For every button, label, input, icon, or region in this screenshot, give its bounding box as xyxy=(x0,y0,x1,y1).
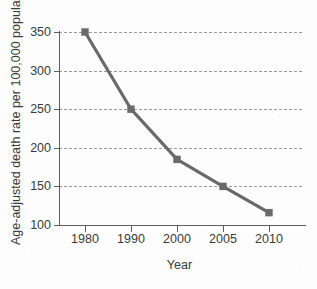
chart-screenshot: 350 300 250 200 150 100 1980 1990 2000 2… xyxy=(0,0,317,289)
data-point-2000 xyxy=(173,156,180,163)
series-markers xyxy=(81,28,272,216)
series-line xyxy=(85,32,269,213)
data-point-2010 xyxy=(265,209,272,216)
x-axis-title: Year xyxy=(0,258,317,272)
x-axis-title-text: Year xyxy=(167,258,192,272)
data-point-1990 xyxy=(127,106,134,113)
data-point-1980 xyxy=(81,28,88,35)
data-series-layer xyxy=(0,0,317,289)
y-axis-title: Age-adjusted death rate per 100,000 popu… xyxy=(9,5,23,245)
data-point-2005 xyxy=(219,183,226,190)
